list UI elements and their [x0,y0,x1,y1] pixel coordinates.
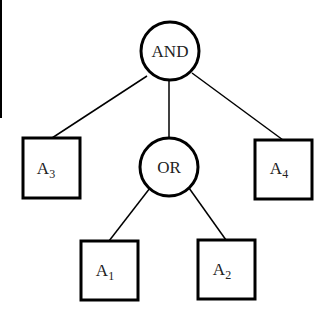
node-a1: A1 [81,241,138,300]
node-a2: A2 [198,240,255,299]
left-edge-bar [0,0,2,118]
edge-and-a3 [52,76,147,138]
node-a4: A4 [255,140,312,199]
node-and: AND [141,22,199,80]
node-or: OR [140,138,198,196]
edge-or-a2 [189,188,226,240]
edge-or-a1 [109,188,150,241]
or-label: OR [157,158,181,177]
and-label: AND [152,42,189,61]
and-or-tree-diagram: AND OR A3 A4 A1 A2 [0,0,327,321]
node-a3: A3 [23,138,80,198]
edge-and-a4 [192,73,283,140]
